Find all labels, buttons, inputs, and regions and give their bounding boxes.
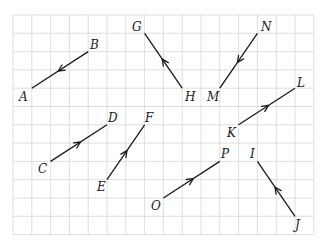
point-label-m: M — [206, 90, 220, 104]
point-label-d: D — [107, 111, 118, 125]
point-label-l: L — [296, 76, 305, 90]
point-label-f: F — [144, 111, 154, 125]
point-label-b: B — [89, 38, 99, 52]
point-label-k: K — [226, 126, 237, 140]
grid — [13, 15, 314, 235]
point-label-e: E — [96, 180, 106, 194]
point-label-j: J — [292, 218, 301, 232]
point-label-h: H — [184, 90, 196, 104]
point-label-p: P — [220, 147, 230, 161]
point-label-n: N — [260, 20, 272, 34]
point-label-a: A — [18, 90, 28, 104]
point-label-c: C — [38, 162, 47, 176]
point-label-i: I — [249, 147, 255, 161]
point-label-o: O — [151, 199, 161, 213]
point-label-g: G — [132, 20, 142, 34]
vector-grid-diagram: ABGHMNLKCDFEOPIJ — [0, 0, 324, 242]
